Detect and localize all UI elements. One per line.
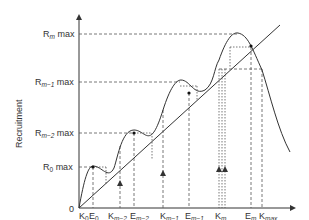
svg-text:Kmax: Kmax bbox=[259, 211, 278, 220]
svg-text:Em−1: Em−1 bbox=[185, 211, 204, 220]
max-guide-lines bbox=[79, 34, 262, 167]
svg-text:Em: Em bbox=[245, 211, 257, 220]
svg-text:Km−2: Km−2 bbox=[108, 211, 127, 220]
y-axis-title: Recruitment bbox=[14, 99, 24, 148]
svg-text:Rm max: Rm max bbox=[43, 29, 75, 40]
svg-text:Em−2: Em−2 bbox=[130, 211, 149, 220]
arrow-up-icon bbox=[216, 166, 222, 172]
svg-text:E0: E0 bbox=[89, 211, 99, 220]
svg-text:K0: K0 bbox=[79, 211, 89, 220]
y-axis-labels: Rm max Rm−1 max Rm−2 max R0 max 0 Recrui… bbox=[14, 29, 75, 214]
equilibrium-points bbox=[91, 44, 252, 168]
arrow-up-icon bbox=[222, 166, 228, 172]
recruitment-curve bbox=[79, 33, 290, 208]
arrow-up-icon bbox=[160, 170, 166, 176]
arrow-up-icon bbox=[117, 180, 123, 186]
svg-text:Km−1: Km−1 bbox=[160, 211, 179, 220]
stock-recruitment-diagram: Rm max Rm−1 max Rm−2 max R0 max 0 Recrui… bbox=[0, 0, 309, 220]
svg-text:Rm−2 max: Rm−2 max bbox=[35, 128, 74, 139]
x-axis-labels: K0 E0 Km−2 Em−2 Km−1 Em−1 Km Em Kmax bbox=[79, 211, 278, 220]
svg-text:0: 0 bbox=[69, 204, 74, 214]
svg-text:Rm−1 max: Rm−1 max bbox=[35, 77, 74, 88]
svg-text:Km: Km bbox=[215, 211, 227, 220]
svg-text:R0 max: R0 max bbox=[43, 162, 73, 173]
replacement-line bbox=[79, 25, 280, 208]
